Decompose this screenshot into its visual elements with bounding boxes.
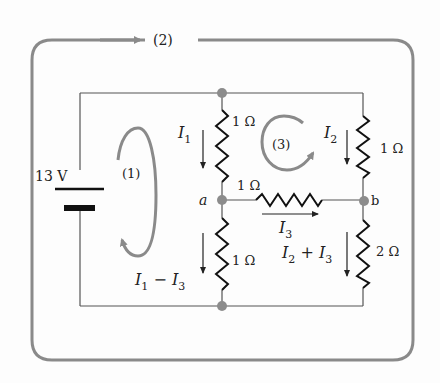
battery-icon — [55, 189, 104, 211]
resistor-top-middle-icon — [216, 110, 228, 182]
resistor-horizontal-icon — [256, 194, 322, 206]
current-i1-minus-i3-label: I1 − I3 — [134, 270, 185, 293]
current-i2-plus-i3-label: I2 + I3 — [281, 243, 332, 266]
resistor-bottom-right-icon — [357, 220, 369, 288]
resistor-top-right-label: 1 Ω — [380, 141, 403, 156]
resistor-top-middle-label: 1 Ω — [232, 114, 255, 129]
node-a-icon — [217, 195, 227, 205]
resistor-bottom-middle-icon — [216, 218, 228, 290]
resistor-bottom-right-label: 2 Ω — [376, 244, 399, 259]
current-i3-label: I3 — [278, 218, 292, 241]
loop-1-label: (1) — [122, 166, 140, 181]
circuit-diagram: (2) 13 V 1 Ω 1 Ω 1 — [0, 0, 440, 383]
resistor-bottom-middle-label: 1 Ω — [232, 253, 255, 268]
current-i1-label: I1 — [177, 123, 191, 146]
resistor-horizontal-label: 1 Ω — [237, 178, 260, 193]
loop-2-label: (2) — [153, 32, 173, 48]
node-top-icon — [217, 88, 227, 98]
node-a-label: a — [199, 192, 207, 208]
resistor-top-right-icon — [357, 116, 369, 178]
node-bottom-icon — [217, 301, 227, 311]
loop-1-arrow-icon — [118, 128, 156, 256]
loop-3-label: (3) — [272, 137, 290, 152]
node-b-label: b — [371, 193, 379, 208]
source-voltage-label: 13 V — [35, 168, 68, 184]
current-i2-label: I2 — [323, 123, 337, 146]
node-b-icon — [359, 196, 369, 206]
